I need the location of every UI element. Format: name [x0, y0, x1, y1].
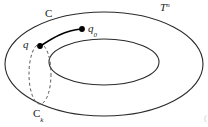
label-point-q0: q0	[88, 23, 97, 37]
label-point-q0-base: q	[88, 22, 94, 34]
meridian-circle-ck	[29, 44, 51, 104]
point-q0-dot	[79, 26, 85, 32]
label-curve-ck-subscript: k	[40, 116, 43, 124]
label-manifold-superscript: n	[166, 1, 170, 9]
label-manifold-tn: Tn	[160, 2, 170, 13]
corner-scan-artifact: (	[204, 113, 207, 123]
label-point-q0-subscript: 0	[94, 31, 98, 39]
point-q-dot	[37, 43, 43, 49]
torus-figure: Tn C q q0 Ck (	[0, 0, 208, 127]
arc-q-to-q0	[41, 29, 82, 46]
inner-hole-ellipse	[49, 39, 159, 85]
label-curve-c: C	[45, 8, 52, 19]
label-point-q: q	[23, 39, 29, 50]
label-curve-ck: Ck	[33, 108, 43, 122]
torus-drawing	[0, 0, 208, 127]
